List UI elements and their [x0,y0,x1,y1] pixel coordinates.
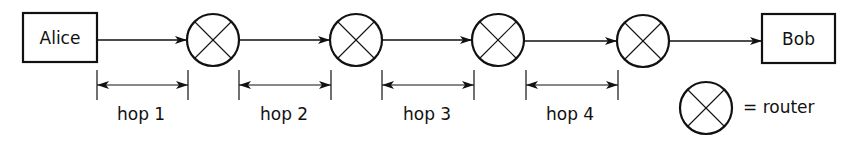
router-4-icon [617,15,669,67]
hop-4-label: hop 4 [546,104,594,124]
hop-2-label: hop 2 [260,104,308,124]
alice-label: Alice [23,28,97,48]
hop-1-label: hop 1 [117,104,165,124]
hop-2-span [239,70,331,100]
router-1-icon [187,14,239,66]
hop-3-span [382,70,474,100]
bob-label: Bob [762,29,835,49]
hop-3-label: hop 3 [403,104,451,124]
router-2-icon [330,14,382,66]
router-3-icon [472,14,524,66]
legend-label: = router [743,97,815,117]
legend-router-icon [680,82,732,134]
hop-1-span [97,70,188,100]
hop-4-span [526,70,618,100]
